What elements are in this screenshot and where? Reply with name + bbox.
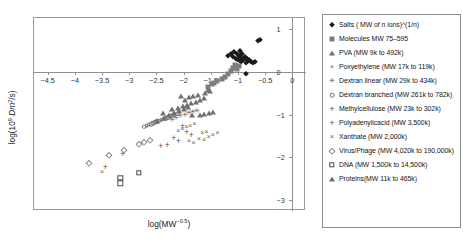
legend-marker-icon [327,145,338,156]
data-point [182,97,188,102]
data-point: × [192,120,196,127]
legend-item: DNA (MW 1,500k to 14,500k) [327,159,457,172]
data-point [236,64,241,69]
data-point [105,152,111,158]
data-point: + [165,140,170,149]
legend-item: ✳Dextran linear (MW 29k to 434k) [327,75,457,88]
data-point: ✳ [190,108,196,115]
data-point [250,60,256,66]
data-point: × [200,130,204,137]
x-tick [292,72,293,75]
legend-marker-icon [327,19,338,30]
legend-item-label: Xanthate (MW 2,000k) [339,131,407,141]
x-tick [48,72,49,75]
x-tick [102,72,103,75]
legend-item-label: DNA (MW 1,500k to 14,500k) [339,159,427,169]
data-point [173,112,178,117]
legend-item-label: Polyadenylicacid (MW 3,500k) [339,117,430,127]
data-point [184,103,190,108]
data-point: + [171,134,176,143]
data-point [234,51,240,57]
data-point [235,57,241,63]
legend-marker-icon: + [327,103,338,114]
y-tick-label: −1 [276,110,284,119]
data-point [86,159,92,165]
legend-item: ×Xanthate (MW 2,000k) [327,131,457,144]
x-axis-title: log(MW−0.5) [33,218,305,229]
x-tick-label: −4.5 [40,76,54,85]
legend-item: PVA (MW 9k to 492k) [327,47,457,60]
data-point [201,111,207,116]
legend-item: ×Poxyethylene (MW 17k to 119k) [327,61,457,74]
data-point [155,119,160,124]
legend-marker-icon [327,159,338,170]
data-point [153,120,158,125]
data-point: × [176,127,180,134]
x-tick-label: −2.5 [149,76,163,85]
x-tick-label: −1 [234,76,242,85]
legend-item-label: Virus/Phage (MW 4,020k to 190,000k) [339,145,454,155]
data-point [207,89,213,94]
legend-item: Proteins(MW 11k to 465k) [327,173,457,186]
data-point [181,107,187,112]
data-point [188,101,194,106]
legend-marker-icon: × [327,61,338,72]
data-point [206,110,212,115]
data-point [136,170,141,175]
data-point: × [100,169,104,176]
data-point [228,51,234,57]
x-tick [211,72,212,75]
data-point [147,137,153,143]
data-point [195,92,201,97]
data-point [245,58,251,64]
data-point [257,37,263,43]
data-point [166,115,171,120]
data-point [121,146,127,152]
legend-marker-icon [327,173,338,184]
data-point: + [180,121,185,130]
data-point: ✳ [169,116,175,123]
data-point: × [215,130,219,137]
data-point [231,49,237,55]
data-point [142,124,147,129]
y-tick-label: 1 [276,24,280,33]
y-tick-label: −3 [276,196,284,205]
data-point [197,97,203,102]
data-point: × [180,125,184,132]
y-tick [289,72,292,73]
data-point [240,56,246,62]
data-point [144,123,149,128]
data-point [225,53,231,59]
legend-item: Molecules MW 75–595 [327,33,457,46]
data-point [171,111,177,116]
data-point [180,103,186,108]
data-point [205,87,211,92]
legend-item-label: Dextran branched (MW 261k to 782k) [339,89,452,99]
data-point [219,76,224,81]
data-point [193,99,199,104]
data-point [162,116,167,121]
data-point [118,175,123,180]
x-tick [156,72,157,75]
x-tick-label: −3 [125,76,133,85]
legend-marker-icon [327,89,338,100]
data-point [170,113,175,118]
data-point [175,111,180,116]
y-tick [289,157,292,158]
data-point: × [206,133,210,140]
data-point [243,60,249,66]
legend-item: +Methylcellulose (MW 23k to 302k) [327,103,457,116]
data-point: × [211,131,215,138]
legend-item-label: Molecules MW 75–595 [339,33,408,43]
y-tick [289,29,292,30]
chart-legend: Salts ( MW of n ions)^(1/n)Molecules MW … [322,14,461,228]
legend-item: Salts ( MW of n ions)^(1/n) [327,19,457,32]
legend-item: Dextran branched (MW 261k to 782k) [327,89,457,102]
y-tick-label: 0 [276,67,280,76]
data-point [248,59,254,65]
data-point [154,119,160,124]
data-point: × [184,124,188,131]
legend-item-label: PVA (MW 9k to 492k) [339,47,403,57]
x-tick-label: −0.5 [258,76,272,85]
data-point [235,53,241,59]
